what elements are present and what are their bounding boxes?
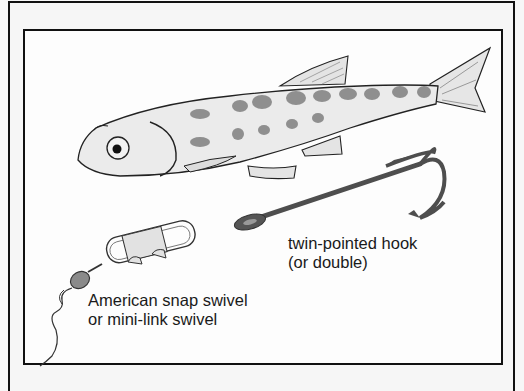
- swivel-label-line2: or mini-link swivel: [88, 310, 248, 329]
- hook-label: twin-pointed hook (or double): [288, 234, 417, 272]
- hook-label-line1: twin-pointed hook: [288, 234, 417, 253]
- swivel-label-line1: American snap swivel: [88, 291, 248, 310]
- twin-pointed-hook-illustration: [233, 149, 445, 233]
- swivel-label: American snap swivel or mini-link swivel: [88, 291, 248, 329]
- hook-label-line2: (or double): [288, 253, 417, 272]
